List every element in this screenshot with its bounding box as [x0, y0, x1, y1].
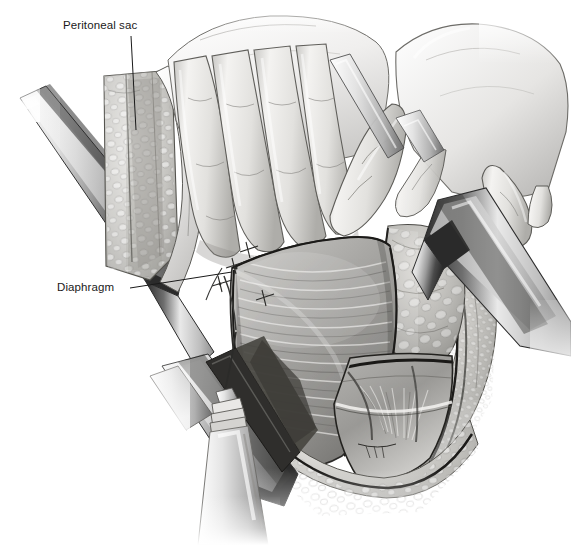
label-peritoneal-sac: Peritoneal sac	[63, 19, 137, 31]
surgical-illustration-figure: Peritoneal sac Diaphragm	[0, 0, 571, 545]
illustration-canvas	[0, 0, 571, 545]
label-diaphragm: Diaphragm	[57, 281, 114, 293]
